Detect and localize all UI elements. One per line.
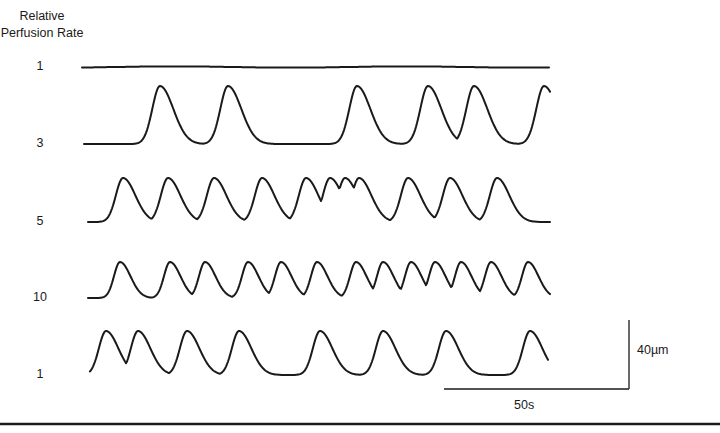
trace-rate-5 xyxy=(88,178,550,222)
vertical-scale-label: 40µm xyxy=(637,343,669,357)
traces-plot xyxy=(0,0,720,433)
horizontal-scale-label: 50s xyxy=(514,398,534,412)
trace-rate-1 xyxy=(82,66,549,67)
trace-rate-3 xyxy=(84,86,550,144)
trace-rate-1-return xyxy=(90,331,548,375)
trace-rate-10 xyxy=(88,262,550,298)
